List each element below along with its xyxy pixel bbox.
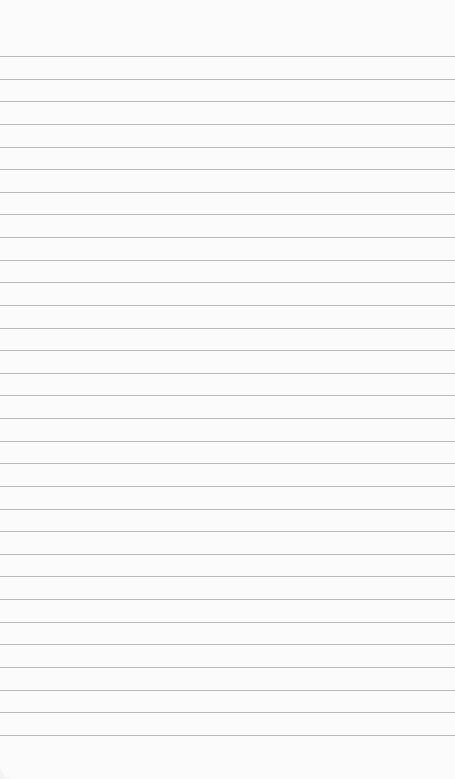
ruled-line <box>0 124 455 125</box>
ruled-line <box>0 599 455 600</box>
ruled-line <box>0 712 455 713</box>
ruled-line <box>0 169 455 170</box>
ruled-line <box>0 350 455 351</box>
ruled-line <box>0 644 455 645</box>
ruled-line <box>0 395 455 396</box>
ruled-line <box>0 554 455 555</box>
lined-paper-sheet <box>0 0 455 779</box>
ruled-line <box>0 260 455 261</box>
ruled-line <box>0 418 455 419</box>
ruled-line <box>0 328 455 329</box>
ruled-line <box>0 576 455 577</box>
ruled-line <box>0 735 455 736</box>
ruled-line <box>0 622 455 623</box>
ruled-line <box>0 237 455 238</box>
ruled-line <box>0 192 455 193</box>
ruled-line <box>0 147 455 148</box>
ruled-line <box>0 690 455 691</box>
ruled-line <box>0 509 455 510</box>
ruled-line <box>0 214 455 215</box>
ruled-line <box>0 667 455 668</box>
ruled-line <box>0 282 455 283</box>
ruled-line <box>0 56 455 57</box>
ruled-line <box>0 79 455 80</box>
ruled-line <box>0 373 455 374</box>
ruled-line <box>0 305 455 306</box>
ruled-line <box>0 486 455 487</box>
ruled-line <box>0 101 455 102</box>
ruled-line <box>0 531 455 532</box>
ruled-line <box>0 463 455 464</box>
ruled-line <box>0 441 455 442</box>
